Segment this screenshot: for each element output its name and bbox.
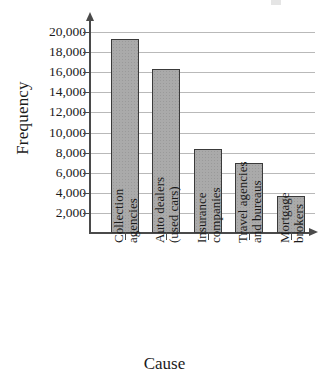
y-axis-tick-label: 8,000 [24, 146, 86, 160]
y-axis-tick-labels: 2,0004,0006,0008,00010,00012,00014,00016… [24, 0, 86, 382]
category-label-line-2: and bureaus [250, 162, 264, 243]
y-axis-tick-label: 2,000 [24, 206, 86, 220]
y-axis-tick-label: 10,000 [24, 126, 86, 140]
y-axis-tick-label: 18,000 [24, 45, 86, 59]
y-axis-tick-mark [83, 153, 91, 154]
y-axis-tick-label: 12,000 [24, 106, 86, 120]
y-axis-tick-mark [83, 133, 91, 134]
x-axis-category-label: Travel agenciesand bureaus [236, 162, 264, 243]
y-axis-tick-label: 4,000 [24, 186, 86, 200]
y-axis-tick-mark [83, 213, 91, 214]
x-axis-category-label: Insurancecompanies [195, 187, 223, 243]
category-label-line-1: Collection [112, 189, 126, 243]
scan-artifact [271, 0, 281, 5]
category-label-line-1: Insurance [195, 187, 209, 243]
bar-chart: Frequency 2,0004,0006,0008,00010,00012,0… [0, 0, 329, 382]
x-axis-title: Cause [0, 354, 329, 374]
y-axis-tick-mark [83, 52, 91, 53]
category-label-line-2: brokers [292, 192, 306, 243]
x-axis-category-label: Mortgagebrokers [278, 192, 306, 243]
y-axis-tick-mark [83, 193, 91, 194]
y-axis-line [89, 18, 91, 233]
y-axis-tick-mark [83, 32, 91, 33]
category-label-line-2: agencies [126, 189, 140, 243]
y-axis-tick-mark [83, 173, 91, 174]
category-label-line-1: Mortgage [278, 192, 292, 243]
gridline [90, 32, 315, 33]
x-axis-arrowhead [309, 228, 318, 236]
y-axis-tick-label: 20,000 [24, 25, 86, 39]
x-axis-category-label: Auto dealers(used cars) [153, 177, 181, 243]
x-axis-category-label: Collectionagencies [112, 189, 140, 243]
y-axis-tick-mark [83, 92, 91, 93]
y-axis-tick-mark [83, 72, 91, 73]
category-label-line-2: companies [209, 187, 223, 243]
y-axis-tick-label: 16,000 [24, 65, 86, 79]
y-axis-tick-label: 6,000 [24, 166, 86, 180]
y-axis-tick-label: 14,000 [24, 86, 86, 100]
y-axis-tick-mark [83, 112, 91, 113]
category-label-line-2: (used cars) [167, 177, 181, 243]
y-axis-arrowhead [86, 12, 94, 21]
